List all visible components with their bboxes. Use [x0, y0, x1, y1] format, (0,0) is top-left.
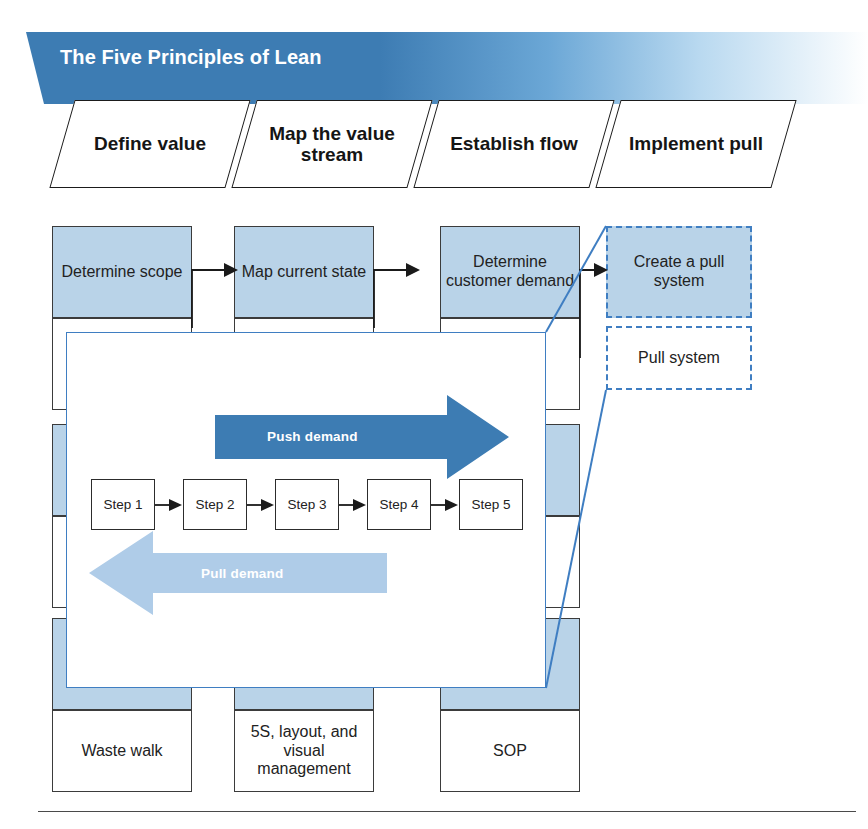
push-demand-arrow-icon [215, 395, 511, 479]
process-step-5: Step 5 [459, 479, 523, 530]
step-arrow-3 [339, 497, 367, 513]
lean-principles-figure: The Five Principles of Lean Define value… [0, 0, 868, 829]
step-arrow-1 [155, 497, 183, 513]
pull-demand-label: Pull demand [201, 566, 283, 581]
push-demand-label: Push demand [267, 429, 358, 444]
process-step-3: Step 3 [275, 479, 339, 530]
process-step-4: Step 4 [367, 479, 431, 530]
push-pull-callout-popup: Push demand Pull demand Step 1 Step 2 St… [66, 332, 546, 688]
process-step-2: Step 2 [183, 479, 247, 530]
step-arrow-2 [247, 497, 275, 513]
step-arrow-4 [431, 497, 459, 513]
process-step-1: Step 1 [91, 479, 155, 530]
